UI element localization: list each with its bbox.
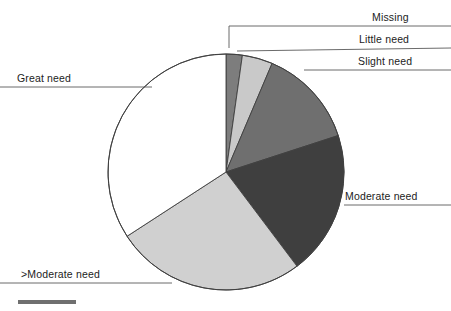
pie-chart-canvas <box>0 0 451 311</box>
leader-line-missing <box>229 26 451 48</box>
callout-label-missing: Missing <box>372 11 409 23</box>
pie-slices-group <box>108 54 344 290</box>
scale-bar <box>18 300 76 304</box>
callout-label-slight-need: Slight need <box>358 55 412 67</box>
callout-label-great-need: Great need <box>17 72 71 84</box>
pie-chart-figure: Missing Little need Slight need Moderate… <box>0 0 451 311</box>
callout-label-greater-moderate-need: >Moderate need <box>21 268 100 280</box>
callout-label-moderate-need: Moderate need <box>345 190 418 202</box>
callout-label-little-need: Little need <box>359 33 409 45</box>
leader-line-little-need <box>237 48 451 51</box>
